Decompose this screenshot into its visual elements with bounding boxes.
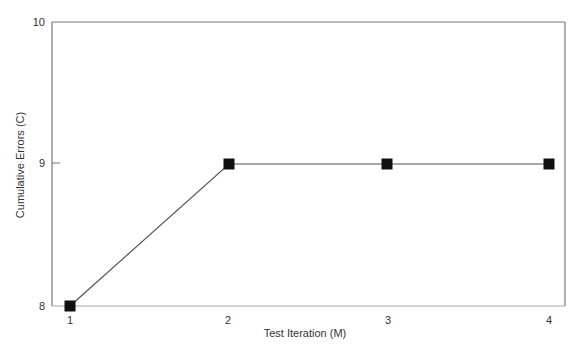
x-tick-label-1: 1 [67,314,73,326]
data-point-marker [544,159,555,170]
y-axis: 10 9 8 Cumulative Errors (C) [14,16,60,312]
x-tick-label-2: 2 [225,314,231,326]
y-tick-label-10: 10 [33,16,45,28]
y-tick-label-8: 8 [39,300,45,312]
x-tick-label-3: 3 [385,314,391,326]
chart: 10 9 8 Cumulative Errors (C) 1 2 3 4 Tes… [0,0,582,355]
y-tick-label-9: 9 [39,157,45,169]
data-point-marker [65,301,76,312]
data-point-marker [224,159,235,170]
series-line [70,164,549,306]
x-axis-title: Test Iteration (M) [264,327,347,339]
data-point-marker [382,159,393,170]
x-axis: 1 2 3 4 Test Iteration (M) [67,314,552,339]
x-tick-label-4: 4 [546,314,552,326]
y-axis-title: Cumulative Errors (C) [14,112,26,218]
series-cumulative-errors [65,159,555,312]
